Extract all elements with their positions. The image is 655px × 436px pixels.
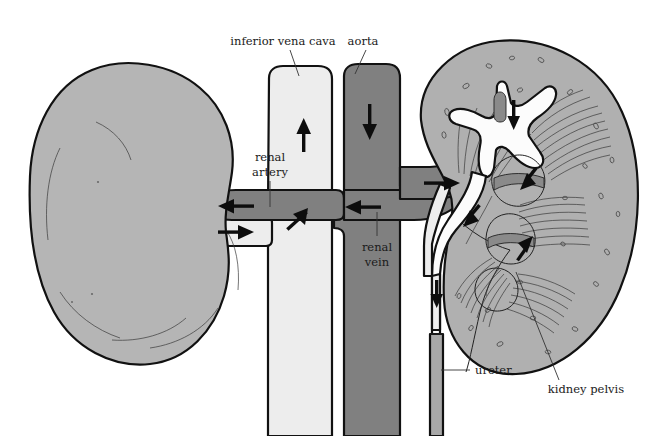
label-ureter: ureter <box>441 363 512 377</box>
label-renal-artery-line1: renal <box>255 150 286 164</box>
label-renal-artery-line2: artery <box>252 165 288 179</box>
kidney-anatomy-diagram: inferior vena cava aorta renal artery re… <box>0 0 655 436</box>
left-kidney <box>30 63 239 364</box>
inferior-vena-cava-vessel <box>262 66 332 436</box>
label-renal-vein-line1: renal <box>362 240 393 254</box>
label-ureter-text: ureter <box>475 363 512 377</box>
diagram-canvas: inferior vena cava aorta renal artery re… <box>0 0 655 436</box>
right-kidney <box>421 40 638 374</box>
label-aorta-text: aorta <box>348 34 379 48</box>
label-kidney-pelvis-text: kidney pelvis <box>548 382 624 396</box>
label-renal-vein-line2: vein <box>364 255 390 269</box>
label-inferior-vena-cava-text: inferior vena cava <box>230 34 335 48</box>
